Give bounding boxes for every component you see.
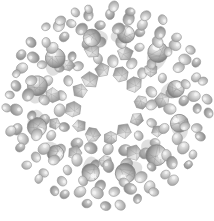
ellipsoid-particle [125, 7, 135, 16]
assembly-canvas [0, 0, 214, 221]
nanoparticle-assembly-figure: Grayscale rendering of a spherical collo… [0, 0, 214, 221]
ellipsoid-particle [191, 123, 202, 132]
figure-background [0, 0, 214, 221]
